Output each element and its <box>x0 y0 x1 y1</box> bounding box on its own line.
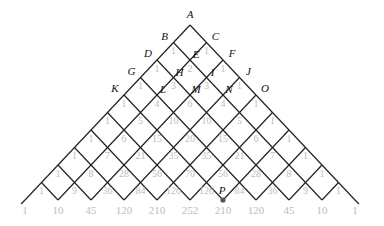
cell-value: 35 <box>202 150 212 161</box>
bottom-value: 45 <box>284 204 296 216</box>
cell-value: 4 <box>155 98 160 109</box>
point-label-e: E <box>192 48 200 60</box>
point-label-c: C <box>212 30 220 42</box>
cell-value: 15 <box>152 133 162 144</box>
point-p-marker <box>220 197 225 202</box>
cell-value: 7 <box>105 150 110 161</box>
cell-value: 28 <box>251 168 261 179</box>
cell-value: 84 <box>136 185 146 196</box>
point-label-g: G <box>128 65 136 77</box>
cell-value: 1 <box>270 115 275 126</box>
cell-value: 20 <box>185 133 195 144</box>
point-label-o: O <box>261 82 269 94</box>
point-label-j: J <box>246 65 252 77</box>
cell-value: 36 <box>103 185 113 196</box>
cell-value: 35 <box>169 150 179 161</box>
cell-value: 3 <box>204 80 209 91</box>
point-label-p: P <box>218 184 226 196</box>
point-label-l: L <box>159 83 166 95</box>
cell-value: 1 <box>56 168 61 179</box>
cell-value: 1 <box>204 45 209 56</box>
cell-value: 1 <box>221 63 226 74</box>
cell-value: 9 <box>72 185 77 196</box>
bottom-value: 10 <box>317 204 329 216</box>
cell-value: 6 <box>254 133 259 144</box>
bottom-value: 120 <box>248 204 265 216</box>
point-label-m: M <box>190 83 201 95</box>
bottom-value: 1 <box>352 204 358 216</box>
cell-value: 7 <box>270 150 275 161</box>
bottom-value: 252 <box>182 204 199 216</box>
grid-line <box>75 148 125 201</box>
cell-value: 1 <box>89 133 94 144</box>
cell-value: 10 <box>169 115 179 126</box>
cell-value: 9 <box>303 185 308 196</box>
bottom-value: 210 <box>215 204 232 216</box>
cell-value: 5 <box>237 115 242 126</box>
point-label-n: N <box>224 83 233 95</box>
bottom-value: 120 <box>116 204 133 216</box>
cell-value: 21 <box>136 150 146 161</box>
cell-value: 1 <box>39 185 44 196</box>
bottom-value: 1 <box>22 204 28 216</box>
bottom-value: 210 <box>149 204 166 216</box>
bottom-value: 45 <box>86 204 98 216</box>
cell-value: 36 <box>268 185 278 196</box>
cell-value: 10 <box>202 115 212 126</box>
cell-value: 1 <box>105 115 110 126</box>
cell-value: 1 <box>336 185 341 196</box>
cell-value: 1 <box>155 63 160 74</box>
point-label-f: F <box>228 47 236 59</box>
cell-value: 6 <box>188 98 193 109</box>
cell-value: 1 <box>72 150 77 161</box>
cell-value: 8 <box>287 168 292 179</box>
cell-value: 1 <box>171 45 176 56</box>
point-label-a: A <box>186 8 194 20</box>
cell-value: 126 <box>199 185 214 196</box>
point-label-h: H <box>175 66 185 78</box>
cell-value: 1 <box>303 150 308 161</box>
point-label-b: B <box>161 30 168 42</box>
cell-value: 56 <box>218 168 228 179</box>
cell-value: 6 <box>122 133 127 144</box>
cell-value: 1 <box>320 168 325 179</box>
pascal-lattice-diagram: 1112113311464115101051161520156117213535… <box>0 0 384 226</box>
grid-line <box>256 148 306 201</box>
cell-value: 1 <box>237 80 242 91</box>
cell-value: 56 <box>152 168 162 179</box>
point-label-d: D <box>143 47 152 59</box>
cell-value: 1 <box>254 98 259 109</box>
cell-value: 28 <box>119 168 129 179</box>
cell-value: 15 <box>218 133 228 144</box>
cell-value: 2 <box>188 63 193 74</box>
bottom-value: 10 <box>53 204 65 216</box>
lattice-canvas: 1112113311464115101051161520156117213535… <box>0 0 384 226</box>
cell-value: 84 <box>235 185 245 196</box>
cell-value: 21 <box>235 150 245 161</box>
cell-value: 1 <box>138 80 143 91</box>
cell-value: 4 <box>221 98 226 109</box>
cell-value: 126 <box>166 185 181 196</box>
cell-value: 1 <box>122 98 127 109</box>
cell-value: 8 <box>89 168 94 179</box>
point-label-k: K <box>110 82 119 94</box>
cell-value: 3 <box>171 80 176 91</box>
point-label-i: I <box>210 66 216 78</box>
cell-value: 5 <box>138 115 143 126</box>
cell-value: 1 <box>287 133 292 144</box>
cell-value: 70 <box>185 168 195 179</box>
